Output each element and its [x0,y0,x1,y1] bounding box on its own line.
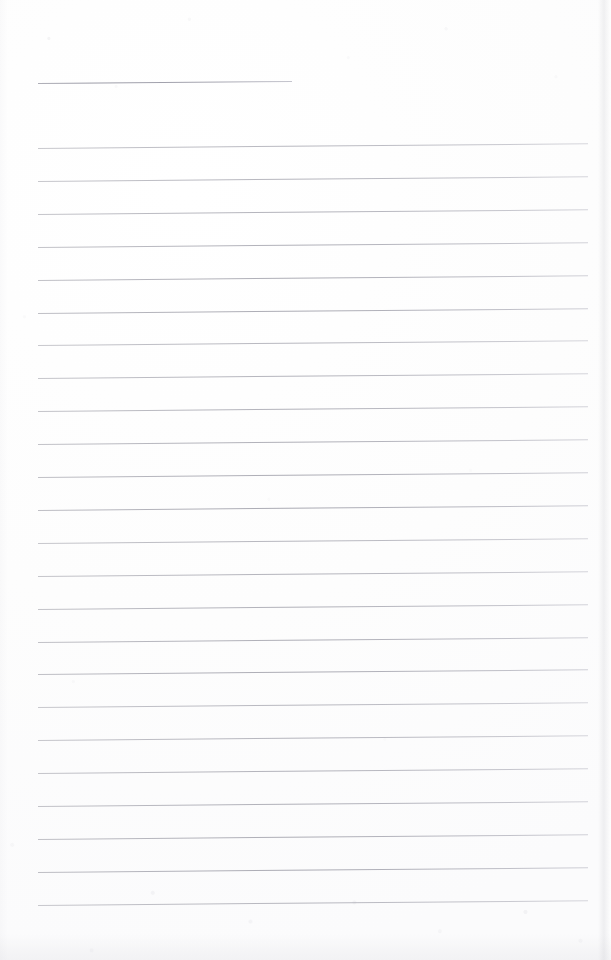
scanned-page [0,0,611,960]
